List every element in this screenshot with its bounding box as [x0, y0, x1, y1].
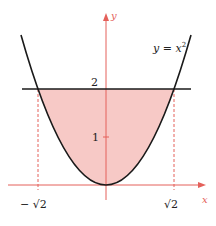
x-axis-label: x — [202, 194, 208, 205]
y-axis-arrow-icon — [103, 13, 109, 21]
x-axis-arrow-icon — [198, 182, 206, 188]
equation-main: y = x — [152, 42, 182, 55]
y-tick-label-1: 1 — [92, 131, 99, 144]
y-tick-label-2: 2 — [91, 76, 98, 89]
y-axis-label: y — [110, 10, 117, 21]
equation-label: y = x2 — [152, 41, 186, 55]
chart: y x y = x2 2 1 − √2 √2 — [0, 0, 216, 226]
equation-exponent: 2 — [182, 41, 186, 49]
x-tick-label-neg-sqrt2: − √2 — [20, 198, 47, 211]
x-tick-label-sqrt2: √2 — [164, 198, 178, 211]
